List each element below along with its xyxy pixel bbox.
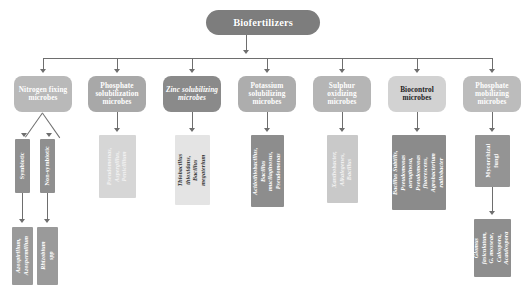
node-non-symbiotic[interactable]: Non-symbiotic bbox=[40, 139, 55, 193]
connector-symbiotic-down bbox=[22, 193, 23, 221]
node-nitrogen-fixing[interactable]: Nitrogen fixing microbes bbox=[14, 76, 72, 112]
arrow-mycorrhizal-genera bbox=[489, 211, 495, 215]
arrow-symbiotic bbox=[21, 133, 27, 137]
node-non-symbiotic-genera[interactable]: Rhizobium spp bbox=[37, 227, 58, 285]
arrow-non-symbiotic-genera bbox=[44, 219, 50, 223]
arrow-drop-2 bbox=[114, 69, 120, 73]
arrow-potassium-genera bbox=[264, 128, 270, 132]
node-phosphate-mobilizing[interactable]: Phosphate mobilizing microbes bbox=[463, 76, 521, 112]
arrow-drop-4 bbox=[264, 69, 270, 73]
node-mycorrhizal-fungi-label: Mycorrhizal fungi bbox=[485, 144, 500, 179]
node-sulphur-oxidizing-label: Sulphur oxidizing microbes bbox=[315, 82, 369, 107]
node-phosphate-solubilization[interactable]: Phosphate solubilization microbes bbox=[88, 76, 146, 112]
arrow-drop-5 bbox=[339, 69, 345, 73]
node-zinc-solubilizing-label: Zinc solubilizing microbes bbox=[165, 86, 219, 102]
arrow-root-stem bbox=[243, 50, 249, 54]
node-mycorrhizal-genera[interactable]: Glomus fasiculatum, G. mosseae, Calospor… bbox=[474, 219, 511, 277]
node-sulphur-oxidizing-genera-label: Xanthobacter, Alkalegenes, Bacillus bbox=[331, 151, 354, 188]
connector-mycorrhizal-down bbox=[492, 187, 493, 213]
node-zinc-solubilizing-genera-label: Thiobacillus thioxidans, Bacillus megate… bbox=[177, 153, 207, 188]
arrow-drop-7 bbox=[489, 69, 495, 73]
node-potassium-solubilizing[interactable]: Potassium solubilizing microbes bbox=[238, 76, 296, 112]
connector-bus bbox=[43, 58, 493, 59]
arrow-drop-1 bbox=[40, 69, 46, 73]
arrow-sulphur-genera bbox=[339, 128, 345, 132]
node-phosphate-solubilization-genera[interactable]: Pseudomonas, Aspergillus, Penicillium bbox=[99, 135, 136, 198]
node-symbiotic-label: Symbiotic bbox=[19, 153, 27, 180]
arrow-biocontrol-genera bbox=[414, 128, 420, 132]
arrow-non-symbiotic bbox=[46, 133, 52, 137]
node-potassium-solubilizing-genera[interactable]: Acidothiobacillus, Bacillus mucilaginosu… bbox=[251, 135, 284, 207]
arrow-drop-3 bbox=[189, 69, 195, 73]
arrow-mycorrhizal-fungi bbox=[489, 128, 495, 132]
node-phosphate-solubilization-label: Phosphate solubilization microbes bbox=[90, 82, 144, 107]
node-biocontrol-label: Biocontrol microbes bbox=[390, 86, 444, 102]
node-root[interactable]: Biofertilizers bbox=[206, 10, 320, 35]
node-root-label: Biofertilizers bbox=[233, 17, 293, 29]
node-potassium-solubilizing-genera-label: Acidothiobacillus, Bacillus mucilaginosu… bbox=[252, 147, 282, 194]
arrow-zinc-genera bbox=[189, 128, 195, 132]
arrow-symbiotic-genera bbox=[19, 219, 25, 223]
arrow-phosphate-solubilization-genera bbox=[114, 128, 120, 132]
node-symbiotic[interactable]: Symbiotic bbox=[15, 139, 30, 193]
node-zinc-solubilizing-genera[interactable]: Thiobacillus thioxidans, Bacillus megate… bbox=[175, 135, 210, 205]
node-symbiotic-genera-label: Azospirillum, Azospermillum bbox=[15, 236, 30, 275]
node-biocontrol-genera[interactable]: Bacillus Subtilis, Pseudomonas aeruginos… bbox=[392, 135, 446, 210]
diagram-canvas: Biofertilizers Nitrogen fixing microbes … bbox=[0, 0, 523, 300]
node-phosphate-mobilizing-label: Phosphate mobilizing microbes bbox=[465, 82, 519, 107]
arrow-drop-6 bbox=[414, 69, 420, 73]
node-biocontrol-genera-label: Bacillus Subtilis, Pseudomonas aeruginos… bbox=[392, 145, 445, 199]
node-zinc-solubilizing[interactable]: Zinc solubilizing microbes bbox=[163, 76, 221, 112]
node-biocontrol[interactable]: Biocontrol microbes bbox=[388, 76, 446, 112]
node-non-symbiotic-label: Non-symbiotic bbox=[44, 146, 52, 185]
connector-non-symbiotic-down bbox=[47, 193, 48, 221]
node-mycorrhizal-fungi[interactable]: Mycorrhizal fungi bbox=[475, 135, 510, 187]
node-non-symbiotic-genera-label: Rhizobium spp bbox=[40, 242, 55, 270]
node-potassium-solubilizing-label: Potassium solubilizing microbes bbox=[240, 82, 294, 107]
node-nitrogen-fixing-label: Nitrogen fixing microbes bbox=[16, 86, 70, 102]
node-sulphur-oxidizing-genera[interactable]: Xanthobacter, Alkalegenes, Bacillus bbox=[327, 135, 358, 203]
node-mycorrhizal-genera-label: Glomus fasiculatum, G. mosseae, Calospor… bbox=[473, 229, 511, 266]
node-symbiotic-genera[interactable]: Azospirillum, Azospermillum bbox=[12, 227, 33, 285]
connector-nitrogen-left bbox=[25, 112, 43, 137]
node-phosphate-solubilization-genera-label: Pseudomonas, Aspergillus, Penicillium bbox=[106, 148, 129, 186]
node-sulphur-oxidizing[interactable]: Sulphur oxidizing microbes bbox=[313, 76, 371, 112]
